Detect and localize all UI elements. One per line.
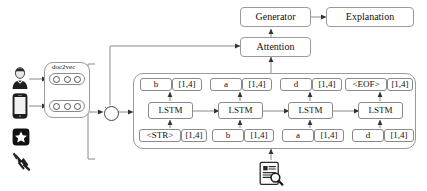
- user-icon: [10, 66, 30, 90]
- input-token-2: a: [282, 129, 314, 142]
- output-token-0: b: [140, 78, 172, 91]
- output-token-2: d: [280, 78, 312, 91]
- embedding-unit: [74, 76, 81, 83]
- embedding-unit: [64, 103, 71, 110]
- doc2vec-title: doc2vec: [52, 64, 75, 71]
- attention-block[interactable]: Attention: [240, 37, 311, 57]
- input-vector-2: [1,4]: [314, 129, 344, 142]
- embedding-row-2: [49, 100, 85, 112]
- input-token-3: d: [352, 129, 384, 142]
- input-token-0: <STR>: [139, 129, 181, 142]
- input-vector-1: [1,4]: [244, 129, 274, 142]
- output-token-3: <EOF>: [345, 78, 387, 91]
- output-vector-0: [1,4]: [172, 78, 202, 91]
- hand-click-icon: [11, 151, 33, 171]
- embedding-unit: [53, 76, 60, 83]
- output-vector-1: [1,4]: [242, 78, 272, 91]
- star-badge-icon: [12, 128, 30, 146]
- multiply-operator-icon: [104, 106, 119, 121]
- embedding-row-1: [49, 73, 85, 85]
- explanation-block[interactable]: Explanation: [326, 7, 414, 27]
- generator-block[interactable]: Generator: [240, 7, 311, 27]
- lstm-cell-1[interactable]: LSTM: [218, 102, 263, 119]
- lstm-cell-0[interactable]: LSTM: [148, 102, 193, 119]
- input-vector-0: [1,4]: [181, 129, 207, 142]
- lstm-cell-3[interactable]: LSTM: [358, 102, 403, 119]
- output-token-1: a: [210, 78, 242, 91]
- document-search-icon: [258, 161, 284, 187]
- smartphone-icon: [12, 93, 28, 119]
- embedding-unit: [64, 76, 71, 83]
- diagram-canvas: doc2vec Generator Explanation Attention …: [0, 0, 427, 191]
- output-vector-2: [1,4]: [312, 78, 342, 91]
- embedding-unit: [74, 103, 81, 110]
- input-vector-3: [1,4]: [384, 129, 414, 142]
- output-vector-3: [1,4]: [387, 78, 413, 91]
- embedding-unit: [53, 103, 60, 110]
- input-token-1: b: [212, 129, 244, 142]
- lstm-cell-2[interactable]: LSTM: [288, 102, 333, 119]
